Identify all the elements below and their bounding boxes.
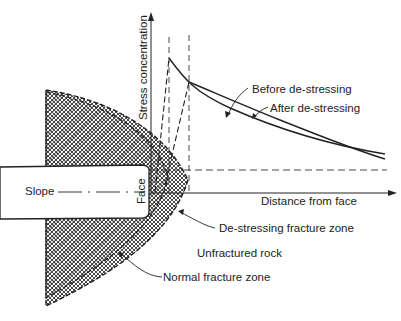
label-before-destressing: Before de-stressing: [252, 83, 352, 95]
label-destressing-zone: De-stressing fracture zone: [219, 222, 354, 234]
x-axis-label: Distance from face: [261, 195, 357, 207]
label-unfractured-rock: Unfractured rock: [197, 247, 282, 259]
label-face: Face: [135, 178, 147, 204]
label-slope: Slope: [25, 185, 54, 197]
label-after-destressing: After de-stressing: [270, 102, 360, 114]
label-normal-zone: Normal fracture zone: [163, 271, 270, 283]
stress-diagram: Stress concentration Distance from face …: [0, 0, 401, 321]
y-axis-label: Stress concentration: [137, 15, 149, 120]
